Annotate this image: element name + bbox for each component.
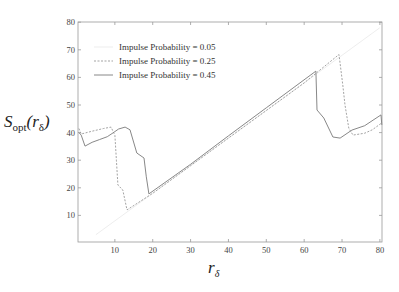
x-tick-label: 30: [186, 245, 195, 255]
y-tick-label: 10: [67, 210, 76, 220]
x-tick-label: 50: [262, 245, 271, 255]
y-tick-label: 60: [67, 72, 76, 82]
x-tick-label: 10: [111, 245, 120, 255]
plot-area: [78, 22, 382, 242]
x-tick-label: 40: [224, 245, 233, 255]
y-tick-label: 70: [67, 45, 76, 55]
y-tick-label: 20: [67, 183, 76, 193]
y-tick-label: 30: [67, 155, 76, 165]
y-axis-label: Sopt(rδ): [4, 112, 50, 133]
legend-label-2: Impulse Probability = 0.45: [119, 70, 216, 80]
y-tick-label: 50: [67, 100, 76, 110]
x-tick-label: 80: [376, 245, 385, 255]
legend-label-0: Impulse Probability = 0.05: [119, 42, 216, 52]
legend-label-1: Impulse Probability = 0.25: [119, 56, 216, 66]
y-tick-label: 80: [67, 17, 76, 27]
chart-canvas: 10203040506070801020304050607080 Impulse…: [0, 0, 399, 292]
x-tick-label: 70: [338, 245, 347, 255]
x-tick-label: 60: [300, 245, 309, 255]
x-tick-label: 20: [148, 245, 157, 255]
y-tick-label: 40: [67, 128, 76, 138]
x-axis-label: rδ: [208, 258, 219, 279]
